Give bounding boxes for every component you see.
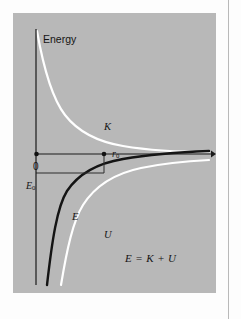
- potential-energy-curve: [61, 160, 209, 285]
- figure-root: Energy 0 E0 r0 r K E U E = K + U: [0, 0, 241, 319]
- energy-equation-annotation: E = K + U: [125, 253, 176, 264]
- page-margin-rule: [228, 0, 229, 319]
- x-axis-arrowhead: [211, 151, 216, 158]
- kinetic-energy-curve: [37, 31, 209, 152]
- origin-dot: [34, 152, 39, 157]
- figure-panel: Energy 0 E0 r0 r K E U E = K + U: [13, 13, 216, 293]
- potential-energy-curve-label: U: [104, 230, 112, 241]
- r0-label-subscript: 0: [116, 152, 119, 159]
- r0-marker-label: r0: [112, 149, 119, 160]
- e0-level-label: E0: [26, 181, 36, 192]
- total-energy-curve-label: E: [72, 212, 78, 223]
- kinetic-energy-curve-label: K: [104, 122, 111, 133]
- r0-dot: [102, 152, 107, 157]
- e0-label-subscript: 0: [32, 184, 35, 191]
- zero-level-label: 0: [33, 162, 39, 172]
- y-axis-title: Energy: [43, 34, 76, 45]
